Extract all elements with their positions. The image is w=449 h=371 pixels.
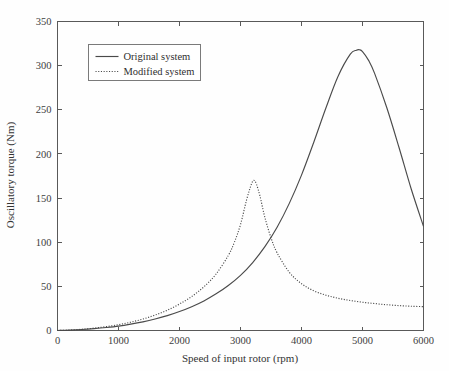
y-tick-label: 50	[41, 281, 52, 292]
x-tick-label: 4000	[291, 335, 312, 346]
x-tick-label: 1000	[108, 335, 129, 346]
x-tick-label: 6000	[413, 335, 434, 346]
plot-canvas: 050100150200250300350 010002000300040005…	[0, 0, 449, 371]
y-tick-label: 350	[36, 16, 52, 27]
legend-label: Original system	[124, 51, 191, 62]
y-tick-label: 150	[36, 193, 52, 204]
x-axis-title: Speed of input rotor (rpm)	[182, 352, 298, 365]
x-tick-label: 5000	[352, 335, 373, 346]
chart-figure: 050100150200250300350 010002000300040005…	[0, 0, 449, 371]
y-tick-label: 100	[36, 237, 52, 248]
y-tick-label: 300	[36, 60, 52, 71]
figure-background	[0, 0, 449, 371]
y-axis-title: Oscillatory torque (Nm)	[4, 122, 17, 229]
x-tick-label: 2000	[169, 335, 190, 346]
y-tick-label: 250	[36, 104, 52, 115]
legend-label: Modified system	[124, 66, 195, 77]
y-tick-label: 200	[36, 149, 52, 160]
y-tick-label: 0	[46, 325, 51, 336]
x-tick-label: 3000	[230, 335, 251, 346]
x-tick-label: 0	[55, 335, 60, 346]
chart-legend: Original systemModified system	[89, 45, 201, 81]
